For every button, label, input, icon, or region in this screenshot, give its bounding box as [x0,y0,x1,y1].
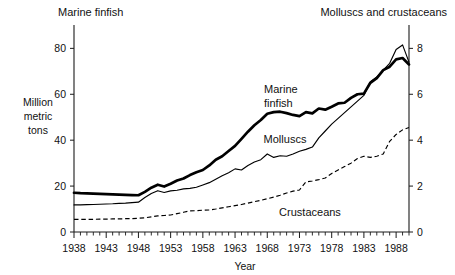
series-label-marine-finfish-line1: Marine [264,83,298,95]
y-tick-label-left: 0 [60,226,66,238]
axes-group [70,25,413,238]
series-line-molluscs [74,45,409,205]
x-tick-label: 1963 [223,242,247,254]
x-tick-label: 1978 [320,242,344,254]
y-tick-label-right: 2 [417,180,423,192]
tick-labels-group: 0204060800246819381943194819531958196319… [54,42,423,254]
y-tick-label-right: 8 [417,42,423,54]
y-tick-label-left: 20 [54,180,66,192]
x-tick-label: 1953 [159,242,183,254]
y-tick-label-left: 40 [54,134,66,146]
x-tick-label: 1943 [95,242,119,254]
y-axis-label-line-2: metric [24,110,53,122]
x-tick-label: 1988 [384,242,408,254]
series-line-marine-finfish [74,58,409,195]
y-tick-label-right: 0 [417,226,423,238]
line-chart: 0204060800246819381943194819531958196319… [0,0,455,275]
y-axis-label-line-3: tons [28,124,48,136]
left-axis-title: Marine finfish [58,6,123,18]
series-label-molluscs: Molluscs [264,133,307,145]
series-label-marine-finfish-line2: finfish [264,97,293,109]
right-axis-title: Molluscs and crustaceans [320,6,447,18]
x-tick-label: 1948 [127,242,151,254]
y-axis-label-line-1: Million [23,96,53,108]
y-tick-label-left: 80 [54,42,66,54]
x-axis-label: Year [234,260,256,272]
series-label-crustaceans: Crustaceans [279,206,341,218]
y-tick-label-right: 4 [417,134,423,146]
series-group [74,45,409,219]
y-tick-label-left: 60 [54,88,66,100]
chart-container: 0204060800246819381943194819531958196319… [0,0,455,275]
x-tick-label: 1973 [288,242,312,254]
x-tick-label: 1983 [352,242,376,254]
x-tick-label: 1958 [191,242,215,254]
x-tick-label: 1938 [62,242,86,254]
series-line-crustaceans [74,128,409,220]
x-tick-label: 1968 [256,242,280,254]
y-tick-label-right: 6 [417,88,423,100]
